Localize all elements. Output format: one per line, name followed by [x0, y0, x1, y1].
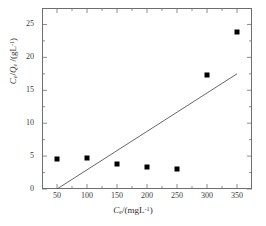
data-point: [55, 157, 60, 162]
data-point: [85, 155, 90, 160]
y-axis-label-sep: /: [8, 73, 18, 76]
x-axis-label: Ce/(mgL-1): [0, 205, 266, 215]
y-axis-label-unit-open: /(gL: [8, 46, 18, 64]
y-tick-label: 10: [12, 119, 34, 127]
y-axis-label-sub2: e: [12, 64, 18, 67]
y-axis-label-unit-close: ): [8, 38, 18, 41]
y-axis-label-unit-exp: -1: [9, 41, 15, 46]
x-axis-label-unit-open: /(mgL: [122, 205, 145, 215]
y-tick-label: 0: [12, 185, 34, 193]
x-tick-label: 50: [53, 192, 61, 200]
x-tick-label: 100: [81, 192, 93, 200]
y-axis-label: Ce/Qe /(gL-1): [8, 11, 18, 111]
y-axis-label-var1: C: [8, 78, 18, 84]
data-point: [205, 73, 210, 78]
x-tick-label: 150: [111, 192, 123, 200]
x-tick-label: 350: [231, 192, 243, 200]
y-axis-label-var2: Q: [8, 67, 18, 74]
data-point: [145, 165, 150, 170]
y-axis-label-sub1: e: [12, 76, 18, 79]
axis-ticks: [42, 8, 252, 189]
data-point: [175, 167, 180, 172]
x-tick-label: 200: [141, 192, 153, 200]
trendline: [57, 74, 237, 189]
x-tick-label: 250: [171, 192, 183, 200]
x-tick-label: 300: [201, 192, 213, 200]
chart-figure: 50100150200250300350 0510152025 Ce/(mgL-…: [0, 0, 266, 226]
data-point: [115, 162, 120, 167]
y-tick-label: 5: [12, 152, 34, 160]
x-axis-label-unit-close: ): [150, 205, 153, 215]
chart-canvas: [0, 0, 266, 226]
data-point: [235, 30, 240, 35]
